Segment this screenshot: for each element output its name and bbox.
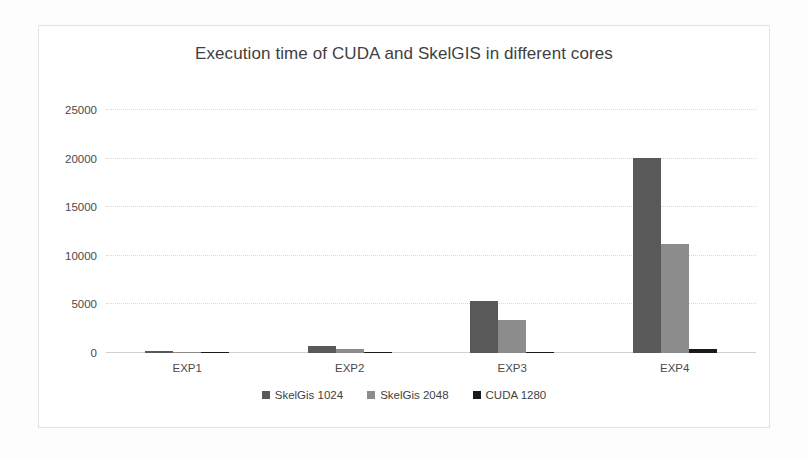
bar-group: EXP1	[106, 110, 269, 353]
bar-set	[106, 110, 269, 353]
x-axis-tick-label: EXP4	[594, 362, 757, 374]
bar[interactable]	[633, 158, 661, 353]
y-axis-tick-label: 25000	[65, 104, 97, 116]
legend-item[interactable]: CUDA 1280	[473, 389, 547, 401]
legend-label: CUDA 1280	[486, 389, 547, 401]
x-axis-tick-label: EXP1	[106, 362, 269, 374]
legend-label: SkelGis 2048	[380, 389, 448, 401]
y-axis-tick-label: 0	[91, 347, 97, 359]
legend-label: SkelGis 1024	[275, 389, 343, 401]
y-axis-tick-label: 15000	[65, 201, 97, 213]
bar[interactable]	[498, 320, 526, 353]
y-axis-tick-label: 20000	[65, 153, 97, 165]
bar-set	[269, 110, 432, 353]
y-axis-tick-label: 5000	[71, 298, 97, 310]
bar[interactable]	[364, 352, 392, 353]
bar-set	[594, 110, 757, 353]
chart-title: Execution time of CUDA and SkelGIS in di…	[39, 44, 769, 64]
bar[interactable]	[201, 352, 229, 353]
chart-container: Execution time of CUDA and SkelGIS in di…	[38, 25, 770, 428]
bar-groups: EXP1EXP2EXP3EXP4	[106, 110, 756, 353]
bar[interactable]	[336, 349, 364, 353]
legend-swatch	[473, 391, 481, 399]
page-background: Execution time of CUDA and SkelGIS in di…	[0, 0, 809, 459]
legend-swatch	[262, 391, 270, 399]
chart-legend: SkelGis 1024SkelGis 2048CUDA 1280	[39, 389, 769, 401]
bar-set	[431, 110, 594, 353]
bar[interactable]	[145, 351, 173, 353]
legend-item[interactable]: SkelGis 1024	[262, 389, 343, 401]
legend-item[interactable]: SkelGis 2048	[367, 389, 448, 401]
bar-group: EXP4	[594, 110, 757, 353]
bar[interactable]	[661, 244, 689, 353]
bar[interactable]	[526, 352, 554, 353]
plot-area: 0500010000150002000025000 EXP1EXP2EXP3EX…	[106, 110, 756, 353]
legend-swatch	[367, 391, 375, 399]
bar[interactable]	[173, 352, 201, 353]
bar[interactable]	[308, 346, 336, 353]
bar-group: EXP3	[431, 110, 594, 353]
x-axis-tick-label: EXP3	[431, 362, 594, 374]
bar[interactable]	[470, 301, 498, 353]
bar[interactable]	[689, 349, 717, 353]
bar-group: EXP2	[269, 110, 432, 353]
x-axis-tick-label: EXP2	[269, 362, 432, 374]
y-axis-tick-label: 10000	[65, 250, 97, 262]
